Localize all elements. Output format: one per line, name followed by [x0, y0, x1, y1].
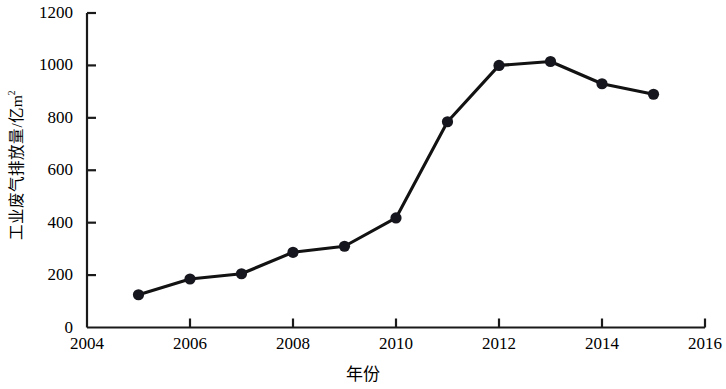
- data-point-markers: [133, 56, 659, 300]
- data-point-marker: [442, 116, 453, 127]
- x-tick-label: 2010: [361, 334, 431, 354]
- data-point-marker: [339, 241, 350, 252]
- data-point-marker: [236, 268, 247, 279]
- data-point-marker: [184, 273, 195, 284]
- x-tick-label: 2012: [464, 334, 534, 354]
- x-axis-tick-labels: 2004200620082010201220142016: [0, 334, 726, 360]
- y-axis-ticks: [87, 13, 96, 275]
- data-series-line: [139, 61, 654, 294]
- data-point-marker: [545, 56, 556, 67]
- x-tick-label: 2006: [155, 334, 225, 354]
- axis-lines: [87, 13, 705, 328]
- line-chart: 工业废气排放量/亿m2 020040060080010001200 200420…: [0, 0, 726, 389]
- data-point-marker: [133, 289, 144, 300]
- x-axis-title-text: 年份: [346, 365, 380, 384]
- plot-area: [0, 0, 726, 389]
- data-point-marker: [493, 60, 504, 71]
- x-axis-title: 年份: [0, 360, 726, 385]
- x-tick-label: 2008: [258, 334, 328, 354]
- data-point-marker: [287, 247, 298, 258]
- x-axis-ticks: [190, 319, 705, 328]
- x-tick-label: 2004: [52, 334, 122, 354]
- data-point-marker: [648, 89, 659, 100]
- x-tick-label: 2016: [670, 334, 726, 354]
- x-tick-label: 2014: [567, 334, 637, 354]
- data-point-marker: [390, 212, 401, 223]
- data-point-marker: [596, 78, 607, 89]
